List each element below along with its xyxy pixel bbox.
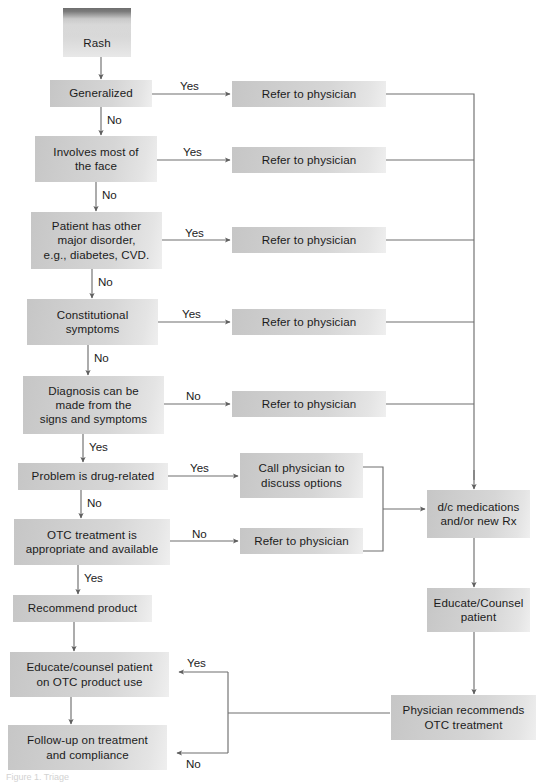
node-educate-counsel: Educate/Counsel patient bbox=[427, 588, 530, 632]
edge-label-drug-yes: Yes bbox=[190, 461, 209, 474]
node-refer-6: Refer to physician bbox=[240, 528, 363, 554]
flowchart-canvas: Rash Generalized Involves most of the fa… bbox=[0, 0, 544, 783]
node-other-disorder-label: Patient has other major disorder, e.g., … bbox=[44, 219, 150, 262]
edge-label-disorder-yes: Yes bbox=[185, 226, 204, 239]
edge-label-diagnosis-no: No bbox=[186, 389, 201, 402]
node-dc-medications-label: d/c medications and/or new Rx bbox=[437, 500, 519, 528]
node-refer-2: Refer to physician bbox=[232, 147, 386, 173]
edge-label-otc-no: No bbox=[192, 527, 207, 540]
node-follow-up-label: Follow-up on treatment and compliance bbox=[27, 733, 148, 761]
node-dc-medications: d/c medications and/or new Rx bbox=[427, 490, 530, 538]
node-call-physician-label: Call physician to discuss options bbox=[258, 461, 344, 489]
node-refer-5: Refer to physician bbox=[232, 391, 386, 417]
node-refer-4: Refer to physician bbox=[232, 309, 386, 335]
node-recommend-product-label: Recommend product bbox=[28, 601, 137, 615]
edge-label-constitutional-no: No bbox=[94, 351, 109, 364]
node-drug-related: Problem is drug-related bbox=[18, 463, 168, 490]
node-refer-4-label: Refer to physician bbox=[262, 315, 357, 329]
node-call-physician: Call physician to discuss options bbox=[240, 453, 363, 498]
edge-label-face-yes: Yes bbox=[183, 145, 202, 158]
edge-label-drug-no: No bbox=[87, 496, 102, 509]
node-generalized: Generalized bbox=[50, 80, 152, 107]
node-refer-1-label: Refer to physician bbox=[262, 87, 357, 101]
edge-label-generalized-yes: Yes bbox=[180, 79, 199, 92]
node-rash-label: Rash bbox=[83, 36, 110, 50]
node-refer-6-label: Refer to physician bbox=[254, 534, 349, 548]
edge-label-diagnosis-yes: Yes bbox=[89, 440, 108, 453]
node-drug-related-label: Problem is drug-related bbox=[32, 469, 155, 483]
node-refer-3-label: Refer to physician bbox=[262, 233, 357, 247]
node-physician-recommends-otc: Physician recommends OTC treatment bbox=[391, 695, 536, 740]
node-constitutional-symptoms: Constitutional symptoms bbox=[27, 299, 158, 345]
node-refer-5-label: Refer to physician bbox=[262, 397, 357, 411]
edge-label-generalized-no: No bbox=[107, 113, 122, 126]
edge-label-otc-yes: Yes bbox=[84, 571, 103, 584]
node-generalized-label: Generalized bbox=[69, 86, 133, 100]
node-involves-face: Involves most of the face bbox=[35, 136, 157, 182]
node-constitutional-symptoms-label: Constitutional symptoms bbox=[57, 308, 129, 336]
node-educate-otc-label: Educate/counsel patient on OTC product u… bbox=[26, 660, 152, 688]
node-educate-counsel-label: Educate/Counsel patient bbox=[434, 596, 524, 624]
node-rash: Rash bbox=[63, 8, 131, 57]
node-refer-2-label: Refer to physician bbox=[262, 153, 357, 167]
node-refer-3: Refer to physician bbox=[232, 227, 386, 253]
node-diagnosis: Diagnosis can be made from the signs and… bbox=[23, 376, 164, 434]
node-physician-recommends-otc-label: Physician recommends OTC treatment bbox=[403, 703, 525, 731]
node-refer-1: Refer to physician bbox=[232, 81, 386, 107]
node-involves-face-label: Involves most of the face bbox=[53, 145, 138, 173]
edge-label-return-no: No bbox=[186, 757, 201, 770]
node-educate-otc: Educate/counsel patient on OTC product u… bbox=[10, 652, 169, 697]
node-follow-up: Follow-up on treatment and compliance bbox=[8, 725, 167, 770]
edge-label-constitutional-yes: Yes bbox=[182, 307, 201, 320]
node-recommend-product: Recommend product bbox=[13, 595, 152, 622]
edge-label-face-no: No bbox=[102, 188, 117, 201]
figure-caption: Figure 1. Triage bbox=[6, 772, 426, 782]
node-other-disorder: Patient has other major disorder, e.g., … bbox=[31, 212, 162, 269]
node-diagnosis-label: Diagnosis can be made from the signs and… bbox=[40, 384, 147, 427]
node-otc-appropriate-label: OTC treatment is appropriate and availab… bbox=[26, 528, 159, 556]
node-otc-appropriate: OTC treatment is appropriate and availab… bbox=[14, 519, 170, 565]
edge-label-return-yes: Yes bbox=[187, 656, 206, 669]
edge-label-disorder-no: No bbox=[98, 275, 113, 288]
